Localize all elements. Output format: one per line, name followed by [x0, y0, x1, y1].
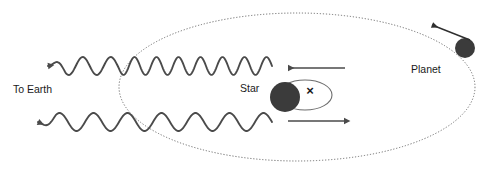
planet-orbital-direction-arrow	[432, 25, 470, 40]
redshifted-light-wave	[38, 113, 272, 131]
star-label: Star	[240, 82, 260, 94]
barycenter-x-marker: ×	[306, 83, 314, 98]
doppler-wobble-diagram: × To Earth Star Planet	[0, 0, 500, 183]
diagram-canvas: × To Earth Star Planet	[0, 0, 500, 183]
star-disk	[270, 82, 300, 112]
planet-orbit-ellipse	[119, 13, 475, 161]
planet-disk	[455, 38, 475, 58]
planet-label: Planet	[411, 63, 441, 75]
to-earth-label: To Earth	[13, 83, 52, 95]
blueshifted-light-wave	[48, 57, 272, 75]
